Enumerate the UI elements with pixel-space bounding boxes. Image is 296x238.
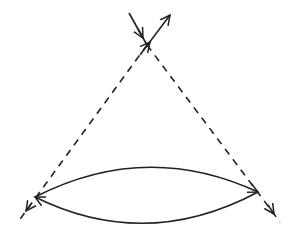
- loop-diagram: [0, 0, 296, 238]
- dashed-right-line: [147, 45, 280, 222]
- diagram-canvas: [0, 0, 296, 238]
- lower-arc: [35, 192, 258, 223]
- upper-arc: [35, 167, 258, 197]
- incoming-solid-line: [129, 13, 147, 45]
